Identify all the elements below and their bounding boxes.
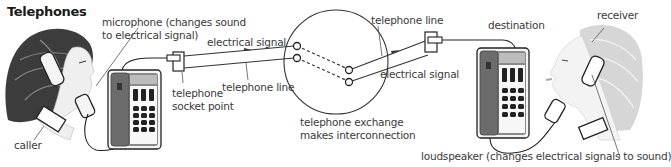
electrical-signal-label-right: electrical signal xyxy=(380,68,459,80)
electrical-signal-label-left: electrical signal xyxy=(207,36,286,48)
telephone-line-right xyxy=(352,40,428,69)
telephone-line-label-right: telephone line xyxy=(371,14,443,26)
microphone-label-line1: microphone (changes sound xyxy=(102,16,246,28)
telephone-socket-right xyxy=(425,32,442,52)
socket-point-label-line2: socket point xyxy=(172,100,234,112)
receiver-figure xyxy=(543,25,642,140)
socket-point-label-line1: telephone xyxy=(172,87,223,99)
caller-label: caller xyxy=(14,139,42,151)
microphone-label-line2: to electrical signal) xyxy=(102,29,198,41)
destination-telephone xyxy=(477,48,529,138)
diagram-title: Telephones xyxy=(7,4,87,19)
telephone-line-left xyxy=(184,58,294,68)
exchange-label-line1: telephone exchange xyxy=(300,116,404,128)
loudspeaker-label: loudspeaker (changes electrical signals … xyxy=(421,150,671,162)
receiver-label: receiver xyxy=(597,9,638,21)
exchange-label-line2: makes interconnection xyxy=(300,129,416,141)
phone-socket-cord xyxy=(122,58,167,70)
telephone-socket-left xyxy=(167,52,184,71)
caller-figure xyxy=(5,29,96,140)
telephone-line-label-left: telephone line xyxy=(222,81,294,93)
signal-arrow-right xyxy=(391,50,400,54)
caller-telephone xyxy=(108,70,161,149)
destination-label: destination xyxy=(488,19,545,31)
